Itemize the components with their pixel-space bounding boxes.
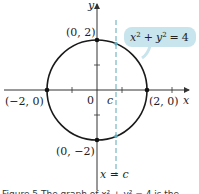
point-left (45, 88, 50, 93)
y-axis-label: y (87, 0, 95, 12)
circle-diagram: x2+y2=4 y x (0, 2) (−2, 0) (2, 0) (0, −2… (0, 0, 199, 194)
point-label-left: (−2, 0) (5, 95, 44, 108)
point-right (145, 88, 150, 93)
origin-label: 0 (87, 94, 94, 107)
point-label-top: (0, 2) (66, 26, 96, 39)
c-label: c (107, 94, 113, 107)
point-label-bottom: (0, −2) (56, 145, 95, 158)
intersection-bottom (114, 135, 118, 139)
equation-callout: x2+y2=4 (124, 27, 196, 58)
line-label: x = c (100, 168, 129, 181)
intersection-top (114, 42, 118, 46)
point-bottom (95, 138, 100, 143)
figure-caption: Figure 5 The graph of x² + y² = 4 is the (2, 189, 180, 194)
x-axis-label: x (183, 94, 190, 107)
point-label-right: (2, 0) (149, 95, 179, 108)
